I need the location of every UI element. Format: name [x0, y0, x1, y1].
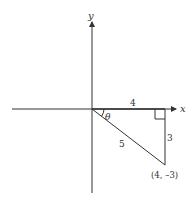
triangle-diagram: y x 4 3 5 θ (4, –3) [0, 0, 196, 204]
y-axis-label: y [87, 10, 94, 21]
hypotenuse-label: 5 [119, 139, 125, 149]
horizontal-side-label: 4 [130, 98, 136, 108]
hypotenuse [92, 109, 165, 165]
point-label: (4, –3) [151, 170, 178, 180]
x-axis-label: x [180, 103, 186, 114]
right-angle-mark [155, 109, 165, 119]
vertical-side-label: 3 [167, 133, 173, 143]
angle-arc [102, 109, 105, 116]
angle-label: θ [105, 112, 111, 122]
